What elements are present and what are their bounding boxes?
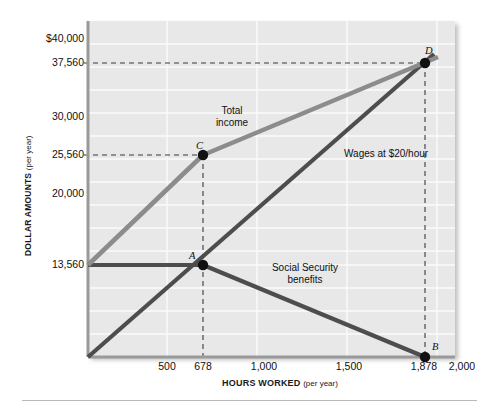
x-tick-1000: 1,000	[251, 360, 277, 372]
bottom-divider-rule	[22, 400, 477, 401]
x-axis-title-sub: (per year)	[303, 379, 338, 388]
data-point-c	[198, 150, 208, 160]
x-axis-title-text: HOURS WORKED	[222, 378, 300, 388]
point-label-d: D	[425, 45, 433, 56]
x-axis-title: HOURS WORKED (per year)	[180, 378, 380, 388]
series-label-total-income: Total income	[196, 105, 268, 129]
data-point-a	[198, 260, 208, 270]
series-label-ssb-line2: benefits	[250, 274, 360, 286]
point-label-b: B	[432, 341, 438, 352]
x-tick-1500: 1,500	[336, 360, 362, 372]
x-tick-2000: 2,000	[449, 360, 475, 372]
series-label-total-income-line1: Total	[196, 105, 268, 117]
data-point-d	[420, 58, 430, 68]
chart-figure: $40,000 37,560 30,000 25,560 20,000 13,5…	[0, 0, 499, 409]
y-tick-13560: 13,560	[28, 258, 84, 270]
x-tick-678: 678	[194, 360, 212, 372]
series-label-total-income-line2: income	[196, 117, 268, 129]
y-axis-title: DOLLAR AMOUNTS (per year)	[23, 146, 33, 256]
x-tick-500: 500	[158, 360, 176, 372]
y-tick-37560: 37,560	[28, 56, 84, 68]
point-label-a: A	[189, 250, 195, 261]
y-tick-20000: 20,000	[28, 187, 84, 199]
series-label-wages: Wages at $20/hour	[344, 148, 428, 160]
y-tick-25560: 25,560	[28, 148, 84, 160]
point-label-c: C	[196, 140, 203, 151]
y-axis-title-text: DOLLAR AMOUNTS	[23, 173, 33, 256]
x-tick-1878: 1,878	[411, 360, 437, 372]
y-axis-title-sub: (per year)	[24, 136, 33, 171]
series-label-ssb-line1: Social Security	[250, 262, 360, 274]
series-label-social-security-benefits: Social Security benefits	[250, 262, 360, 286]
y-tick-30000: 30,000	[28, 110, 84, 122]
y-axis-tick-labels: $40,000 37,560 30,000 25,560 20,000 13,5…	[26, 0, 84, 409]
y-tick-40000: $40,000	[28, 32, 84, 44]
